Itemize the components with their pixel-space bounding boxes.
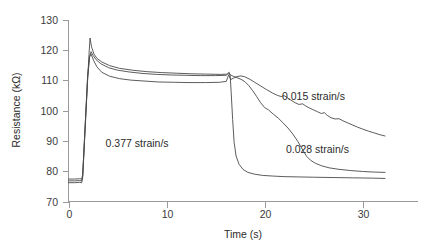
series-line — [69, 52, 386, 179]
x-tick-label: 10 — [162, 208, 174, 220]
y-axis: 708090100110120130 — [40, 14, 68, 208]
x-axis-title: Time (s) — [224, 228, 262, 240]
series-annotation-label: 0.028 strain/s — [286, 143, 349, 155]
series-line — [69, 54, 386, 181]
y-tick-label: 100 — [40, 105, 58, 117]
data-series-group — [69, 38, 386, 183]
x-tick-label: 30 — [358, 208, 370, 220]
y-tick-label: 90 — [46, 135, 58, 147]
x-tick-labels: 0102030 — [67, 208, 370, 220]
y-tick-label: 110 — [41, 74, 58, 86]
x-tick-label: 20 — [260, 208, 272, 220]
y-tick-label: 70 — [46, 196, 58, 208]
series-annotation-label: 0.377 strain/s — [106, 137, 169, 149]
y-tick-label: 130 — [40, 14, 58, 26]
y-tick-label: 120 — [40, 44, 58, 56]
series-line — [69, 38, 386, 183]
x-tick-marks — [70, 202, 364, 208]
y-tick-label: 80 — [46, 165, 58, 177]
resistance-vs-time-chart: 708090100110120130 0102030 0.377 strain/… — [0, 0, 435, 247]
x-axis: 0102030 — [67, 202, 418, 221]
y-axis-title: Resistance (kΩ) — [10, 73, 22, 148]
y-tick-marks — [63, 21, 69, 203]
chart-figure: 708090100110120130 0102030 0.377 strain/… — [0, 0, 435, 247]
series-annotations: 0.377 strain/s0.015 strain/s0.028 strain… — [106, 90, 349, 155]
x-tick-label: 0 — [67, 208, 73, 220]
y-tick-labels: 708090100110120130 — [40, 14, 58, 208]
series-annotation-label: 0.015 strain/s — [282, 90, 345, 102]
